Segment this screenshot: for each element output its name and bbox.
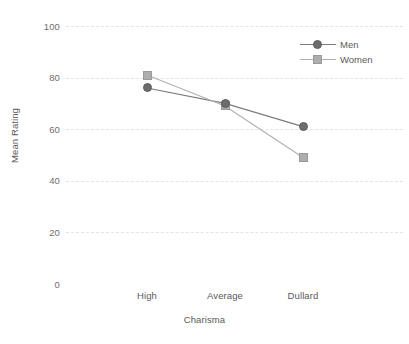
filled-circle-marker-icon (313, 40, 322, 49)
filled-square-marker-icon (313, 55, 322, 64)
line-chart: 100 80 60 40 20 0 Mean Rating High Avera… (0, 0, 409, 344)
x-tick-label-dullard: Dullard (268, 290, 338, 301)
data-point-men-high (143, 83, 152, 92)
x-tick-label-high: High (112, 290, 182, 301)
x-axis-title: Charisma (0, 314, 409, 325)
data-point-men-dullard (299, 122, 308, 131)
series-line-women (147, 75, 303, 158)
legend-item-men[interactable]: Men (296, 37, 401, 52)
data-point-women-dullard (299, 153, 308, 162)
legend: Men Women (296, 37, 401, 67)
data-point-men-average (221, 99, 230, 108)
legend-label-women: Women (340, 54, 373, 65)
data-point-women-high (143, 71, 152, 80)
x-tick-label-average: Average (190, 290, 260, 301)
legend-item-women[interactable]: Women (296, 52, 401, 67)
legend-label-men: Men (340, 39, 358, 50)
